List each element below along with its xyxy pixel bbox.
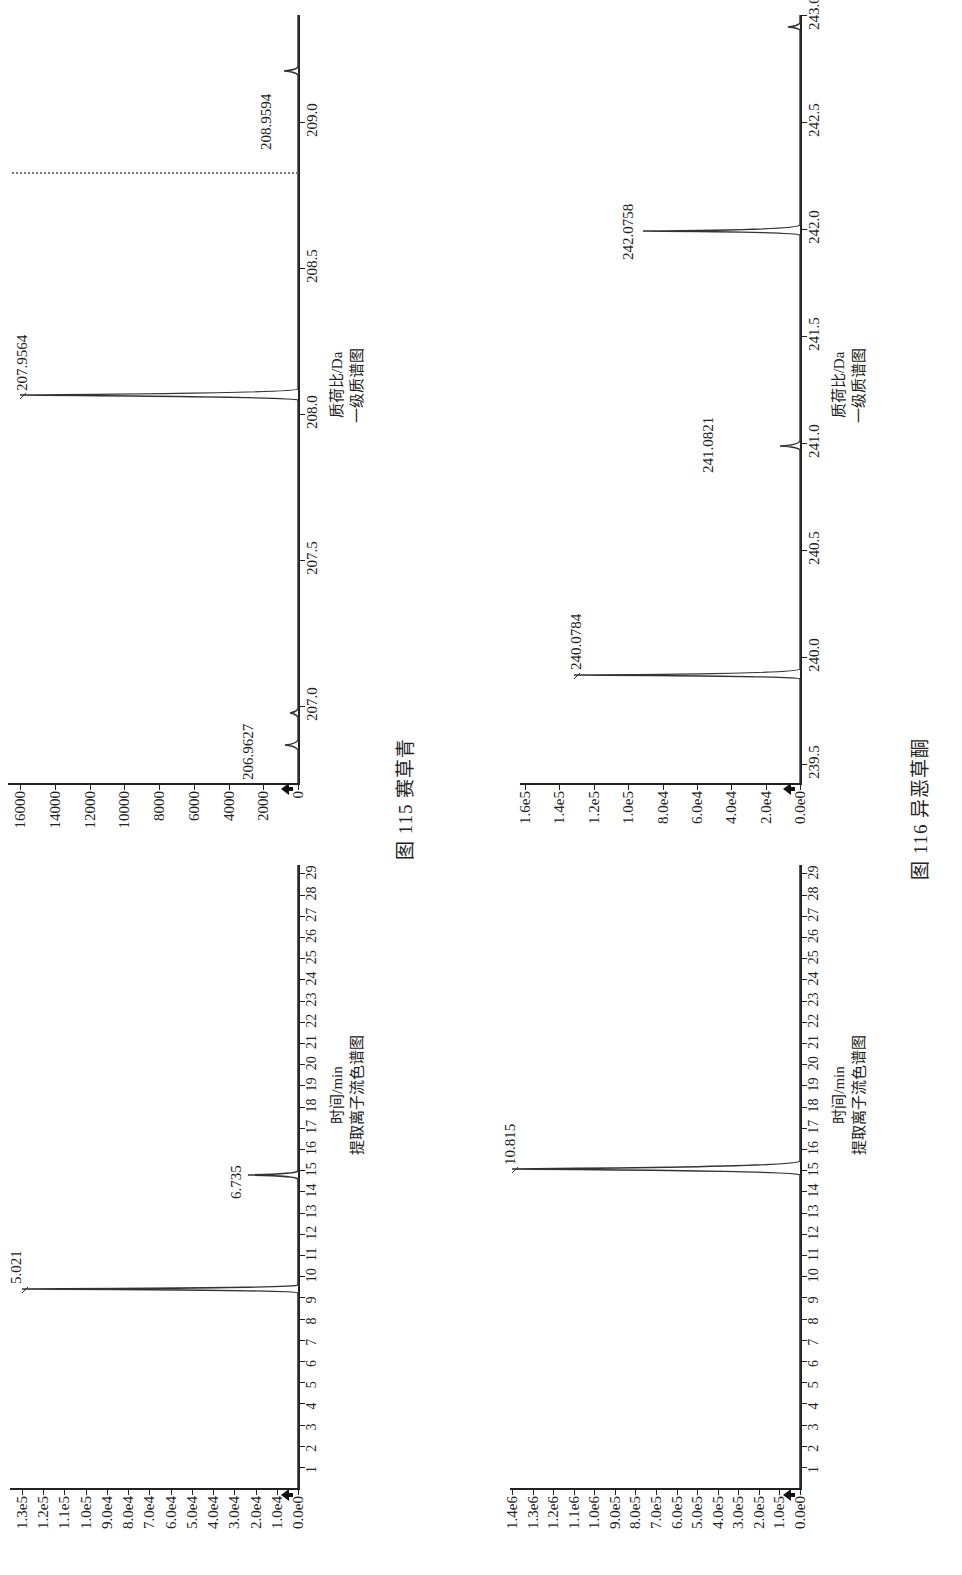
fig116-spectrum-trace [0, 0, 962, 1575]
rotated-page: 1.3e51.2e51.1e51.0e59.0e48.0e47.0e46.0e4… [0, 0, 962, 1575]
chart-subtitle: 一级质谱图 [847, 325, 868, 445]
figure-caption: 图 116 异恶草酮 [905, 738, 932, 880]
x-axis-title: 质荷比/Da [827, 325, 848, 445]
peak-label: 240.0784 [568, 614, 585, 670]
peak-label: 241.0821 [700, 417, 717, 473]
peak-label: 242.0758 [620, 204, 637, 260]
